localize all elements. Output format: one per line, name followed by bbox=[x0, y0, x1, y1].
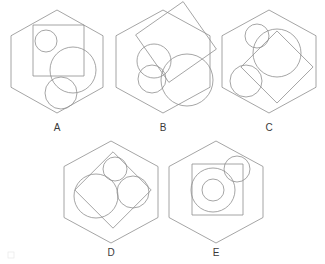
circle-e-2 bbox=[224, 156, 250, 182]
labels-layer: ABCDE bbox=[54, 122, 273, 258]
circle-c-2 bbox=[245, 24, 269, 48]
hexagon-outline-a bbox=[11, 10, 103, 113]
circle-c-3 bbox=[253, 29, 301, 77]
hexagon-outline-b bbox=[116, 10, 210, 113]
figure-label-b: B bbox=[160, 122, 167, 133]
figure-label-a: A bbox=[54, 122, 61, 133]
figure-label-d: D bbox=[107, 247, 114, 258]
circle-e-3 bbox=[191, 168, 235, 212]
square-d-1 bbox=[75, 152, 151, 228]
circle-d-2 bbox=[103, 157, 127, 181]
circle-b-4 bbox=[161, 54, 213, 106]
artifacts-layer bbox=[8, 252, 14, 258]
hexagon-outline-d bbox=[64, 141, 158, 243]
circle-a-3 bbox=[50, 47, 96, 93]
corner-speck-artifact bbox=[8, 252, 14, 258]
figure-d[interactable] bbox=[64, 141, 158, 243]
hexagon-outline-c bbox=[222, 10, 316, 113]
hexagon-outline-e bbox=[169, 141, 263, 243]
figure-label-c: C bbox=[265, 122, 272, 133]
circle-e-4 bbox=[202, 179, 224, 201]
square-c-1 bbox=[241, 31, 313, 103]
circle-d-4 bbox=[117, 176, 149, 208]
figure-c[interactable] bbox=[222, 10, 316, 113]
figure-b[interactable] bbox=[116, 2, 216, 113]
circle-c-4 bbox=[230, 65, 262, 97]
puzzle-canvas: ABCDE bbox=[0, 0, 325, 264]
square-b-1 bbox=[136, 2, 217, 83]
figure-label-e: E bbox=[213, 247, 220, 258]
figure-a[interactable] bbox=[11, 10, 103, 113]
circle-a-2 bbox=[35, 30, 57, 52]
figure-e[interactable] bbox=[169, 141, 263, 243]
circle-b-3 bbox=[138, 65, 166, 93]
